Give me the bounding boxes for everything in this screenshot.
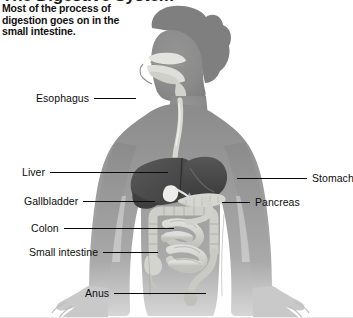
callout-colon-leader [64,228,174,229]
callout-stomach-label: Stomach [312,173,353,184]
callout-liver-leader [50,172,168,173]
callout-anus: Anus [85,288,206,299]
figure-caption: Most of the process of digestion goes on… [2,3,147,38]
callout-liver-label: Liver [22,167,45,178]
callout-stomach: Stomach [237,173,353,184]
callout-esophagus: Esophagus [36,93,136,104]
callout-small-intestine-label: Small intestine [29,247,98,258]
callout-stomach-leader [237,178,307,179]
callout-esophagus-leader [94,98,136,99]
callout-small-intestine-leader [103,252,158,253]
callout-gallbladder-leader [83,201,155,202]
callout-anus-label: Anus [85,288,109,299]
callout-pancreas-label: Pancreas [255,197,300,208]
callout-colon: Colon [31,223,174,234]
callout-pancreas-leader [222,202,250,203]
callout-esophagus-label: Esophagus [36,93,89,104]
callout-gallbladder-label: Gallbladder [24,196,78,207]
callout-liver: Liver [22,167,168,178]
anatomy-illustration [0,0,353,318]
callout-gallbladder: Gallbladder [24,196,155,207]
right-hand [253,286,309,318]
callout-pancreas: Pancreas [222,197,300,208]
callout-colon-label: Colon [31,223,59,234]
head-group [140,6,231,104]
digestive-system-figure: The Digestive System Most of the process… [0,0,353,318]
callout-small-intestine: Small intestine [29,247,158,258]
callout-anus-leader [114,293,206,294]
